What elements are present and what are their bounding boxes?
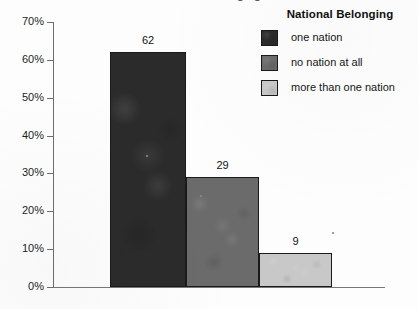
y-axis-tick-label: 30% bbox=[0, 167, 44, 178]
legend-entry: one nation bbox=[258, 29, 418, 46]
y-axis-tick bbox=[47, 60, 54, 61]
bar-chart-figure: National Belonging 0%10%20%30%40%50%60%7… bbox=[0, 0, 418, 309]
y-axis-tick-label: 40% bbox=[0, 130, 44, 141]
swatch-texture bbox=[262, 31, 277, 45]
y-axis-tick bbox=[47, 249, 54, 250]
legend-entry-label: more than one nation bbox=[291, 82, 395, 93]
scan-speck bbox=[146, 155, 148, 157]
y-axis-tick bbox=[47, 98, 54, 99]
legend-swatch-one-nation bbox=[261, 30, 278, 46]
legend-entry-label: one nation bbox=[291, 32, 342, 43]
y-axis-tick bbox=[47, 136, 54, 137]
swatch-texture bbox=[262, 81, 277, 95]
bar-texture bbox=[187, 178, 258, 286]
y-axis-tick-label: 10% bbox=[0, 243, 44, 254]
bar-value-label: 62 bbox=[110, 35, 186, 46]
y-axis-line bbox=[53, 22, 54, 288]
y-axis-tick-label: 50% bbox=[0, 92, 44, 103]
bar bbox=[110, 52, 186, 287]
bar-value-label: 29 bbox=[186, 160, 259, 171]
bar-texture bbox=[260, 254, 331, 286]
y-axis-tick-label: 0% bbox=[0, 281, 44, 292]
y-axis-tick-label: 60% bbox=[0, 54, 44, 65]
y-axis-tick-label: 20% bbox=[0, 205, 44, 216]
bar bbox=[259, 253, 332, 287]
bar-texture bbox=[111, 53, 185, 286]
legend-entry: more than one nation bbox=[258, 79, 418, 96]
x-axis-line bbox=[53, 287, 385, 288]
y-axis-tick bbox=[47, 22, 54, 23]
legend-title: National Belonging bbox=[262, 8, 418, 20]
y-axis-tick bbox=[47, 211, 54, 212]
y-axis-tick bbox=[47, 287, 54, 288]
legend-entry-label: no nation at all bbox=[291, 57, 363, 68]
bar-value-label: 9 bbox=[259, 236, 332, 247]
swatch-texture bbox=[262, 56, 277, 70]
legend-entries: one nationno nation at allmore than one … bbox=[258, 29, 418, 96]
cropped-chart-title-text: National Belonging bbox=[0, 0, 418, 1]
legend-entry: no nation at all bbox=[258, 54, 418, 71]
scan-speck bbox=[200, 195, 202, 197]
y-axis-tick-label: 70% bbox=[0, 16, 44, 27]
bar bbox=[186, 177, 259, 287]
legend-swatch-no-nation-at-all bbox=[261, 55, 278, 71]
cropped-chart-title: National Belonging bbox=[0, 0, 418, 5]
scan-speck bbox=[332, 232, 334, 234]
legend-swatch-more-than-one-nation bbox=[261, 80, 278, 96]
y-axis-tick bbox=[47, 173, 54, 174]
chart-legend: National Belonging one nationno nation a… bbox=[258, 8, 418, 104]
